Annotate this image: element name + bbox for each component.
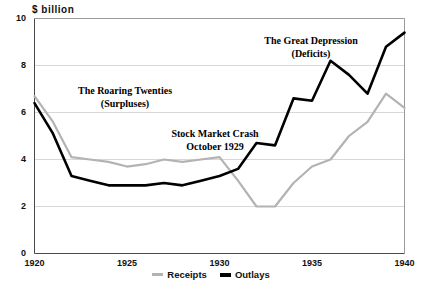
annotation-line-1: The Roaring Twenties [78, 85, 172, 98]
y-tick-label: 2 [2, 201, 26, 211]
legend-label-outlays: Outlays [235, 269, 270, 280]
x-tick-label: 1935 [292, 258, 332, 268]
x-tick-label: 1925 [107, 258, 147, 268]
legend-swatch-receipts-icon [152, 273, 163, 276]
chart-legend: Receipts Outlays [0, 269, 422, 280]
legend-item-receipts[interactable]: Receipts [152, 269, 207, 280]
annotation-line-2: (Surpluses) [78, 98, 172, 111]
annotation-line-2: October 1929 [171, 141, 258, 154]
annotation-great-depression: The Great Depression(Deficits) [264, 35, 358, 60]
x-tick-label: 1930 [200, 258, 240, 268]
annotation-line-1: Stock Market Crash [171, 128, 258, 141]
legend-item-outlays[interactable]: Outlays [220, 269, 270, 280]
annotation-line-1: The Great Depression [264, 35, 358, 48]
chart-container: $ billion 0246810 19201925193019351940 T… [0, 0, 422, 291]
y-tick-label: 0 [2, 248, 26, 258]
legend-label-receipts: Receipts [167, 269, 207, 280]
y-tick-label: 4 [2, 154, 26, 164]
annotation-stock-market-crash: Stock Market CrashOctober 1929 [171, 128, 258, 153]
x-tick-label: 1940 [385, 258, 422, 268]
x-tick-label: 1920 [15, 258, 55, 268]
y-tick-label: 6 [2, 107, 26, 117]
legend-swatch-outlays-icon [220, 273, 231, 277]
annotation-roaring-twenties: The Roaring Twenties(Surpluses) [78, 85, 172, 110]
y-tick-label: 10 [2, 13, 26, 23]
annotation-line-2: (Deficits) [264, 48, 358, 61]
y-tick-label: 8 [2, 60, 26, 70]
